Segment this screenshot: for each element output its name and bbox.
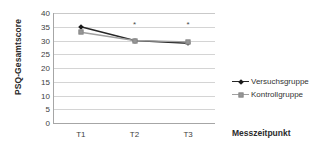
y-axis-tick-label: 30 bbox=[41, 36, 50, 45]
data-point-square bbox=[186, 39, 191, 44]
y-axis-tick-label: 35 bbox=[41, 22, 50, 31]
plot-area: 0510152025303540T1T2T3** bbox=[53, 13, 215, 124]
x-axis-tick-label: T1 bbox=[76, 130, 85, 139]
legend-item-versuchsgruppe: Versuchsgruppe bbox=[232, 75, 309, 88]
x-axis-tick-label: T2 bbox=[130, 130, 139, 139]
legend-item-kontrollgruppe: Kontrollgruppe bbox=[232, 88, 309, 101]
data-point-square bbox=[132, 38, 137, 43]
y-axis-tick-label: 5 bbox=[46, 105, 50, 114]
y-axis-tick-label: 20 bbox=[41, 64, 50, 73]
y-axis-tick-label: 15 bbox=[41, 77, 50, 86]
legend-marker-diamond-icon bbox=[232, 77, 249, 86]
legend-label-versuchsgruppe: Versuchsgruppe bbox=[251, 77, 309, 86]
y-axis-tick-label: 10 bbox=[41, 91, 50, 100]
data-point-square bbox=[78, 30, 83, 35]
significance-marker: * bbox=[133, 21, 136, 29]
legend-label-kontrollgruppe: Kontrollgruppe bbox=[251, 90, 303, 99]
y-axis-title: PSQ-Gesamtscore bbox=[13, 0, 23, 117]
significance-marker: * bbox=[187, 21, 190, 29]
x-axis-title: Messzeitpunkt bbox=[232, 128, 291, 138]
psq-gesamtscore-line-chart: PSQ-Gesamtscore 0510152025303540T1T2T3**… bbox=[0, 0, 328, 157]
chart-legend: Versuchsgruppe Kontrollgruppe bbox=[232, 75, 309, 101]
y-axis-tick-label: 40 bbox=[41, 9, 50, 18]
y-axis-tick-label: 25 bbox=[41, 50, 50, 59]
y-axis-tick-label: 0 bbox=[46, 119, 50, 128]
legend-marker-square-icon bbox=[232, 90, 249, 99]
x-axis-tick-label: T3 bbox=[183, 130, 192, 139]
